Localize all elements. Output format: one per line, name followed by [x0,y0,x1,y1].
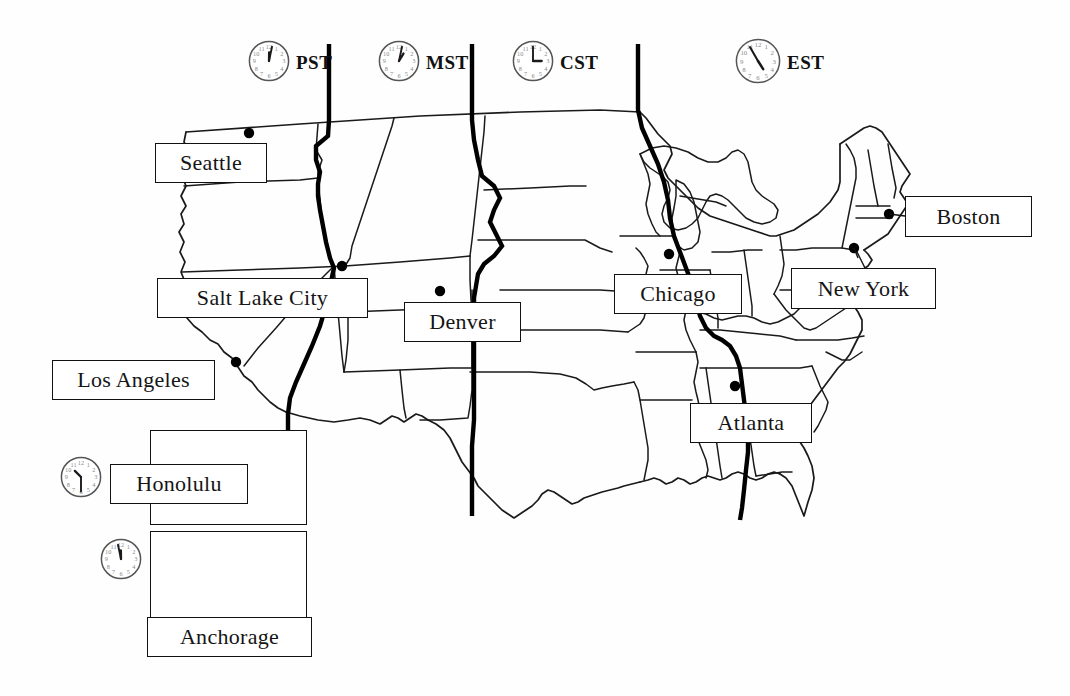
svg-text:2: 2 [410,50,413,57]
svg-text:2: 2 [132,548,135,555]
svg-text:5: 5 [87,486,90,493]
svg-text:1: 1 [127,543,130,550]
svg-text:8: 8 [67,481,70,488]
timezone-header-pst: 123456789101112PST [248,40,332,86]
svg-text:5: 5 [764,72,768,79]
svg-text:12: 12 [755,41,762,48]
svg-text:1: 1 [764,43,768,50]
svg-text:11: 11 [111,543,117,550]
clock-icon: 123456789101112 [378,40,420,82]
clock-icon: 123456789101112 [248,40,290,82]
city-dot-seattle [244,128,254,138]
city-label-los-angeles[interactable]: Los Angeles [52,360,215,400]
svg-text:7: 7 [72,486,75,493]
svg-text:3: 3 [412,57,415,64]
clock-icon: 123456789101112 [735,38,781,84]
alaska-inset [150,531,307,631]
svg-text:2: 2 [92,466,95,473]
svg-text:8: 8 [519,65,522,72]
svg-text:9: 9 [740,58,744,65]
timezone-abbr: CST [560,52,598,74]
city-label-denver[interactable]: Denver [404,302,521,342]
clock-icon: 123456789101112 [100,538,142,580]
svg-text:3: 3 [134,555,137,562]
svg-text:11: 11 [389,45,395,52]
svg-text:3: 3 [282,57,285,64]
city-dot-atlanta [730,381,740,391]
city-label-atlanta[interactable]: Atlanta [690,403,812,443]
city-label-new-york[interactable]: New York [791,268,936,309]
svg-text:8: 8 [385,65,388,72]
svg-text:7: 7 [112,568,115,575]
svg-text:2: 2 [770,49,774,56]
svg-text:6: 6 [531,72,534,79]
svg-text:7: 7 [524,70,527,77]
svg-text:3: 3 [94,473,97,480]
svg-text:8: 8 [107,563,110,570]
svg-text:9: 9 [105,555,108,562]
city-dot-denver [435,286,445,296]
city-label-boston[interactable]: Boston [905,196,1032,237]
svg-text:1: 1 [275,45,278,52]
svg-text:7: 7 [260,70,263,77]
svg-text:11: 11 [523,45,529,52]
city-label-chicago[interactable]: Chicago [614,274,742,314]
svg-text:3: 3 [546,57,549,64]
svg-text:12: 12 [78,459,84,466]
city-label-honolulu[interactable]: Honolulu [110,464,248,504]
timezone-abbr: EST [787,52,824,74]
svg-text:11: 11 [71,461,77,468]
clock-icon: 123456789101112 [248,40,290,86]
city-dot-salt-lake-city [337,261,347,271]
svg-text:8: 8 [742,66,746,73]
alaska-clock-icon: 123456789101112 [100,538,142,584]
svg-text:1: 1 [539,45,542,52]
svg-text:11: 11 [259,45,265,52]
hawaii-clock-icon: 123456789101112 [60,456,102,502]
timezone-header-cst: 123456789101112CST [512,40,598,86]
clock-icon: 123456789101112 [60,456,102,498]
svg-text:5: 5 [539,70,542,77]
clock-icon: 123456789101112 [512,40,554,86]
clock-icon: 123456789101112 [512,40,554,82]
svg-text:9: 9 [65,473,68,480]
clock-icon: 123456789101112 [735,38,781,88]
svg-text:9: 9 [383,57,386,64]
timezone-abbr: PST [296,52,332,74]
svg-text:8: 8 [255,65,258,72]
svg-text:1: 1 [87,461,90,468]
city-dot-los-angeles [231,357,241,367]
svg-text:3: 3 [773,58,777,65]
svg-text:2: 2 [544,50,547,57]
city-label-seattle[interactable]: Seattle [155,143,267,183]
clock-icon: 123456789101112 [378,40,420,86]
svg-text:6: 6 [397,72,400,79]
svg-text:1: 1 [405,45,408,52]
svg-text:5: 5 [405,70,408,77]
svg-text:7: 7 [390,70,393,77]
city-label-salt-lake-city[interactable]: Salt Lake City [157,278,368,318]
svg-text:9: 9 [517,57,520,64]
svg-text:6: 6 [267,72,270,79]
svg-text:5: 5 [127,568,130,575]
svg-text:4: 4 [770,66,774,73]
svg-text:2: 2 [280,50,283,57]
timezone-abbr: MST [426,52,469,74]
timezone-map-page: 123456789101112PST123456789101112MST1234… [0,0,1070,696]
svg-text:5: 5 [275,70,278,77]
mst-cst-boundary [472,44,502,516]
svg-text:7: 7 [748,72,752,79]
svg-text:10: 10 [740,49,747,56]
city-label-anchorage[interactable]: Anchorage [147,617,312,657]
svg-text:9: 9 [253,57,256,64]
svg-text:6: 6 [119,570,122,577]
timezone-header-mst: 123456789101112MST [378,40,469,86]
timezone-header-est: 123456789101112EST [735,38,824,88]
city-dot-chicago [664,249,674,259]
svg-text:6: 6 [756,74,760,81]
